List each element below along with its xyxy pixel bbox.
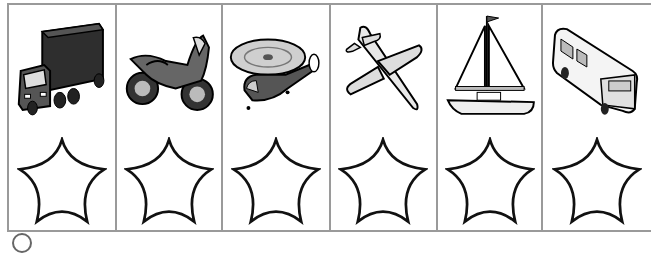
- circle-marker-icon: [12, 233, 32, 253]
- star-outline-icon[interactable]: [124, 137, 214, 227]
- star-outline-icon[interactable]: [338, 137, 428, 227]
- star-outline-icon[interactable]: [552, 137, 642, 227]
- star-outline-icon[interactable]: [17, 137, 107, 227]
- star-outline-icon[interactable]: [445, 137, 535, 227]
- cell-sailboat: [438, 5, 544, 230]
- cell-bus: [543, 5, 651, 230]
- cell-helicopter: [223, 5, 331, 230]
- airplane-icon: [331, 9, 436, 119]
- motorcycle-icon: [117, 9, 222, 119]
- cell-truck: [9, 5, 117, 230]
- cell-airplane: [331, 5, 438, 230]
- helicopter-icon: [223, 9, 329, 119]
- vehicle-star-grid: [7, 3, 651, 232]
- sailboat-icon: [438, 9, 542, 119]
- truck-icon: [9, 9, 115, 119]
- bus-icon: [543, 9, 651, 119]
- cell-motorcycle: [117, 5, 224, 230]
- star-outline-icon[interactable]: [231, 137, 321, 227]
